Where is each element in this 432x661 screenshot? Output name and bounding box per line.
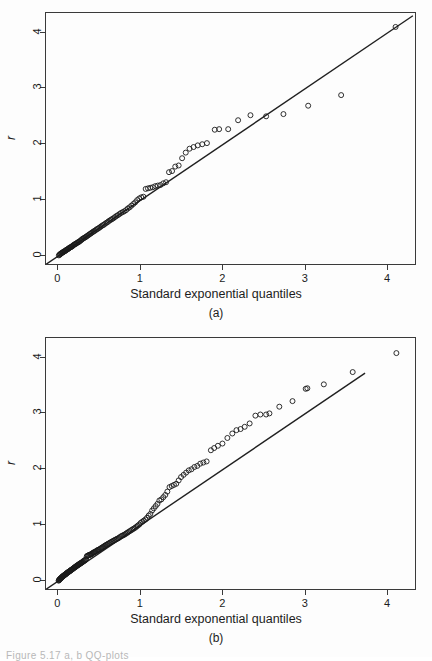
- x-tick: [222, 590, 223, 595]
- data-point: [253, 413, 258, 418]
- figure-caption: Figure 5.17 a, b QQ-plots: [6, 650, 129, 661]
- data-point: [236, 118, 241, 123]
- data-point: [242, 424, 247, 429]
- data-point: [170, 169, 175, 174]
- y-tick-label: 4: [32, 24, 43, 38]
- data-point: [247, 421, 252, 426]
- panel-caption-b: (b): [0, 631, 432, 645]
- y-tick-label: 2: [32, 461, 43, 475]
- data-point: [180, 156, 185, 161]
- data-point: [173, 164, 178, 169]
- data-point: [339, 93, 344, 98]
- data-point: [183, 150, 188, 155]
- x-tick: [57, 265, 58, 270]
- x-tick-label: 3: [302, 598, 308, 609]
- y-tick-label: 3: [32, 80, 43, 94]
- panel-b: r Standard exponential quantiles (b) 012…: [0, 325, 432, 657]
- data-point: [264, 412, 269, 417]
- y-tick-label: 2: [32, 136, 43, 150]
- panel-a: r Standard exponential quantiles (a) 012…: [0, 0, 432, 325]
- y-tick-label: 0: [32, 247, 43, 261]
- data-point: [350, 370, 355, 375]
- x-tick: [387, 265, 388, 270]
- data-point: [258, 412, 263, 417]
- x-tick-label: 0: [54, 598, 60, 609]
- x-tick-label: 3: [302, 273, 308, 284]
- y-axis-label-a: r: [4, 135, 18, 139]
- data-point: [306, 103, 311, 108]
- x-tick-label: 1: [137, 598, 143, 609]
- x-tick-label: 0: [54, 273, 60, 284]
- data-point: [176, 163, 181, 168]
- x-tick: [57, 590, 58, 595]
- x-tick: [305, 590, 306, 595]
- x-tick: [140, 265, 141, 270]
- plot-area-b: [45, 337, 416, 590]
- panel-caption-a: (a): [0, 306, 432, 320]
- data-point: [321, 382, 326, 387]
- x-tick: [305, 265, 306, 270]
- data-point: [267, 411, 272, 416]
- y-tick-label: 0: [32, 572, 43, 586]
- data-point: [226, 127, 231, 132]
- x-tick: [140, 590, 141, 595]
- data-point: [248, 113, 253, 118]
- x-tick-label: 2: [219, 273, 225, 284]
- y-tick-label: 1: [32, 517, 43, 531]
- data-point: [201, 460, 206, 465]
- data-point: [204, 141, 209, 146]
- data-point: [277, 404, 282, 409]
- y-tick-label: 4: [32, 349, 43, 363]
- data-point: [281, 112, 286, 117]
- data-point: [204, 459, 209, 464]
- x-tick: [222, 265, 223, 270]
- plot-area-a: [45, 12, 416, 265]
- scatter-layer-a: [46, 13, 415, 264]
- reference-line: [46, 373, 365, 589]
- y-tick-label: 1: [32, 192, 43, 206]
- data-point: [225, 435, 230, 440]
- data-point: [290, 399, 295, 404]
- data-point: [220, 441, 225, 446]
- x-tick-label: 1: [137, 273, 143, 284]
- y-tick-label: 3: [32, 405, 43, 419]
- x-tick-label: 2: [219, 598, 225, 609]
- scatter-layer-b: [46, 338, 415, 589]
- data-point: [394, 351, 399, 356]
- data-point: [167, 170, 172, 175]
- x-tick-label: 4: [384, 273, 390, 284]
- y-axis-label-b: r: [4, 460, 18, 464]
- x-tick: [387, 590, 388, 595]
- x-tick-label: 4: [384, 598, 390, 609]
- x-axis-title-a: Standard exponential quantiles: [0, 287, 432, 301]
- x-axis-title-b: Standard exponential quantiles: [0, 612, 432, 626]
